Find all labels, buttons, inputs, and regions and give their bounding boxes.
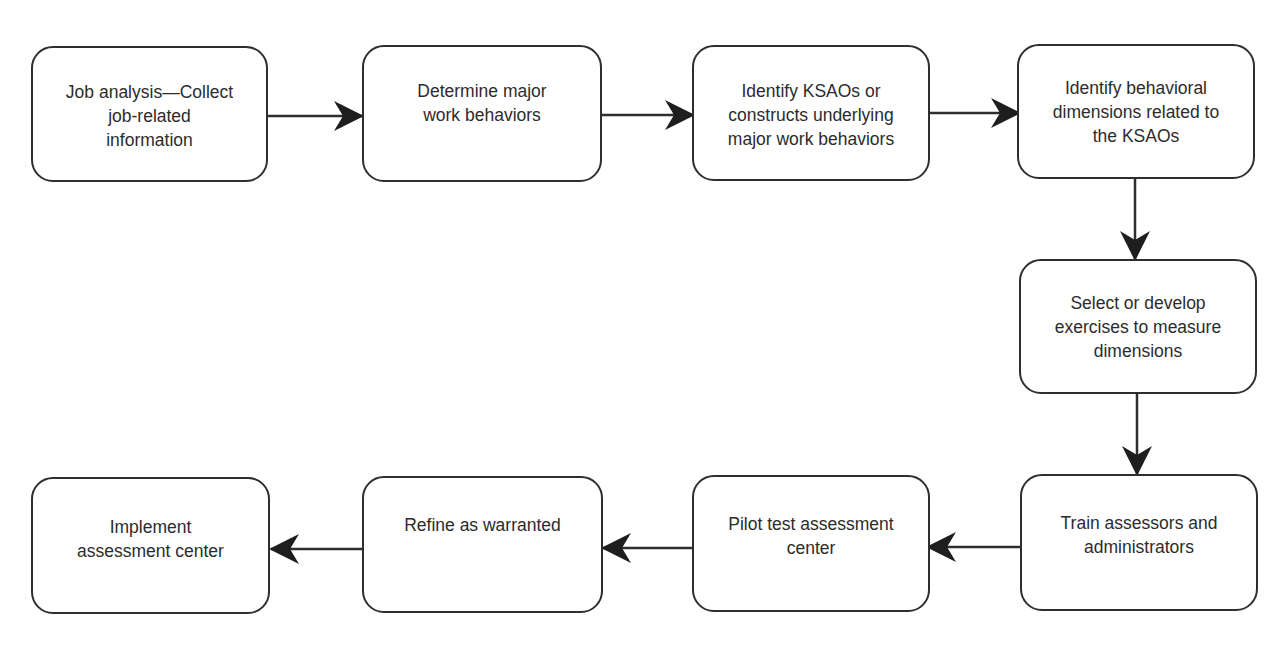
step-label: Identify KSAOs or constructs underlying …: [728, 79, 894, 179]
step-label: Job analysis—Collect job-related informa…: [66, 80, 233, 180]
step-label: Determine major work behaviors: [417, 79, 546, 180]
step-train-assessors: Train assessors and administrators: [1020, 474, 1258, 611]
step-select-exercises: Select or develop exercises to measure d…: [1019, 259, 1257, 394]
step-identify-dimensions: Identify behavioral dimensions related t…: [1017, 44, 1255, 179]
flowchart-canvas: Job analysis—Collect job-related informa…: [0, 0, 1285, 645]
step-label: Select or develop exercises to measure d…: [1055, 291, 1221, 392]
step-job-analysis: Job analysis—Collect job-related informa…: [31, 46, 268, 182]
step-label: Implement assessment center: [77, 515, 224, 612]
step-label: Pilot test assessment center: [728, 512, 893, 610]
step-implement: Implement assessment center: [31, 477, 270, 614]
step-label: Refine as warranted: [404, 513, 561, 611]
step-refine: Refine as warranted: [362, 476, 603, 613]
step-label: Train assessors and administrators: [1061, 511, 1218, 609]
step-determine-work-behaviors: Determine major work behaviors: [362, 45, 602, 182]
step-label: Identify behavioral dimensions related t…: [1053, 76, 1219, 177]
step-pilot-test: Pilot test assessment center: [692, 475, 930, 612]
step-identify-ksaos: Identify KSAOs or constructs underlying …: [692, 45, 930, 181]
